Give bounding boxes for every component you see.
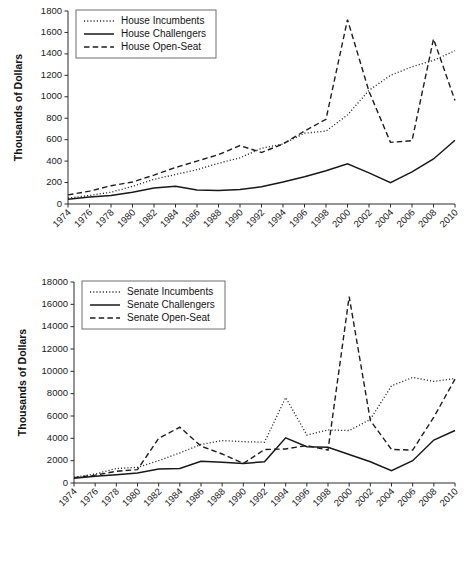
x-tick-label: 1984 [162, 486, 185, 509]
y-tick-label: 18000 [42, 276, 68, 287]
legend-label: House Challengers [121, 28, 206, 39]
x-tick-label: 1984 [158, 207, 181, 230]
legend-label: Senate Challengers [127, 299, 215, 310]
y-tick-label: 1400 [41, 47, 62, 58]
y-axis-title: Thousands of Dollars [12, 54, 24, 162]
x-tick-label: 2008 [416, 207, 439, 230]
figure-root: 0200400600800100012001400160018001974197… [0, 0, 476, 576]
y-tick-label: 1000 [41, 90, 62, 101]
x-tick-label: 1998 [310, 486, 333, 509]
x-tick-label: 1980 [115, 207, 138, 230]
y-tick-label: 2000 [47, 454, 68, 465]
y-tick-label: 800 [46, 112, 62, 123]
x-tick-label: 2006 [394, 207, 417, 230]
house-chart-canvas: 0200400600800100012001400160018001974197… [0, 0, 476, 288]
y-axis-title: Thousands of Dollars [16, 329, 28, 437]
x-tick-label: 2006 [395, 486, 418, 509]
y-tick-label: 6000 [47, 410, 68, 421]
chart-senate-spending: 0200040006000800010000120001400016000180… [0, 270, 476, 576]
x-tick-label: 2004 [373, 207, 396, 230]
y-tick-label: 0 [63, 477, 68, 488]
x-tick-label: 1974 [56, 486, 79, 509]
x-tick-label: 1996 [287, 207, 310, 230]
x-tick-label: 1976 [72, 207, 95, 230]
series-line-senate-challengers [74, 431, 455, 479]
x-tick-label: 1976 [77, 486, 100, 509]
y-tick-label: 600 [46, 133, 62, 144]
y-tick-label: 12000 [42, 343, 68, 354]
x-tick-label: 1978 [99, 486, 122, 509]
x-tick-label: 2008 [416, 486, 439, 509]
series-line-house-incumbents [68, 51, 455, 198]
y-tick-label: 200 [46, 176, 62, 187]
x-tick-label: 1986 [179, 207, 202, 230]
x-tick-label: 1990 [222, 207, 245, 230]
y-tick-label: 1200 [41, 69, 62, 80]
x-tick-label: 1974 [50, 207, 73, 230]
x-tick-label: 1982 [141, 486, 164, 509]
x-tick-label: 1996 [289, 486, 312, 509]
y-tick-label: 1800 [41, 5, 62, 16]
x-tick-label: 2002 [351, 207, 374, 230]
senate-chart-canvas: 0200040006000800010000120001400016000180… [0, 270, 476, 576]
legend-label: Senate Incumbents [127, 286, 213, 297]
y-tick-label: 10000 [42, 365, 68, 376]
y-tick-label: 1600 [41, 26, 62, 37]
x-tick-label: 1980 [120, 486, 143, 509]
y-tick-label: 16000 [42, 298, 68, 309]
legend-label: House Incumbents [121, 15, 204, 26]
x-tick-label: 1988 [204, 486, 227, 509]
x-tick-label: 1990 [226, 486, 249, 509]
x-tick-label: 1988 [201, 207, 224, 230]
x-tick-label: 2004 [374, 486, 397, 509]
x-tick-label: 2010 [437, 486, 460, 509]
x-tick-label: 2002 [353, 486, 376, 509]
series-line-house-challengers [68, 140, 455, 199]
x-tick-label: 2010 [437, 207, 460, 230]
y-tick-label: 0 [57, 198, 62, 209]
x-tick-label: 1994 [268, 486, 291, 509]
x-tick-label: 2000 [331, 486, 354, 509]
chart-house-spending: 0200400600800100012001400160018001974197… [0, 0, 476, 288]
x-tick-label: 2000 [330, 207, 353, 230]
x-tick-label: 1998 [308, 207, 331, 230]
x-tick-label: 1978 [93, 207, 116, 230]
x-tick-label: 1992 [247, 486, 270, 509]
y-tick-label: 4000 [47, 432, 68, 443]
legend-label: Senate Open-Seat [127, 312, 210, 323]
x-tick-label: 1986 [183, 486, 206, 509]
x-tick-label: 1992 [244, 207, 267, 230]
legend-label: House Open-Seat [121, 41, 201, 52]
y-tick-label: 14000 [42, 320, 68, 331]
x-tick-label: 1982 [136, 207, 159, 230]
y-tick-label: 8000 [47, 387, 68, 398]
y-tick-label: 400 [46, 155, 62, 166]
x-tick-label: 1994 [265, 207, 288, 230]
